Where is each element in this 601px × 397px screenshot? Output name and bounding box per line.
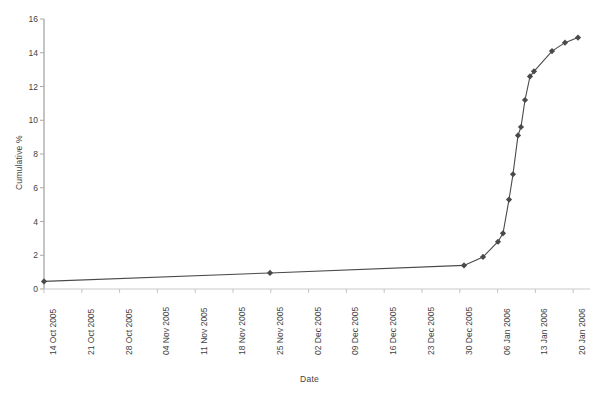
x-tick-label: 21 Oct 2005 bbox=[86, 309, 96, 355]
x-axis-title: Date bbox=[300, 374, 319, 384]
x-tick-label: 14 Oct 2005 bbox=[48, 309, 58, 355]
x-tick-label: 06 Jan 2006 bbox=[502, 308, 512, 355]
x-tick-label: 20 Jan 2006 bbox=[577, 308, 587, 355]
x-tick-label: 11 Nov 2005 bbox=[199, 307, 209, 355]
x-tick-label: 02 Dec 2005 bbox=[313, 307, 323, 355]
x-tick-label: 30 Dec 2005 bbox=[464, 307, 474, 355]
y-axis-title-wrap: Cumulative % bbox=[0, 0, 18, 300]
x-tick-label: 18 Nov 2005 bbox=[237, 307, 247, 355]
y-axis-title: Cumulative % bbox=[14, 135, 24, 190]
cumulative-percent-line-chart: 0246810121416 14 Oct 200521 Oct 200528 O… bbox=[0, 0, 601, 397]
x-axis-tick-labels: 14 Oct 200521 Oct 200528 Oct 200504 Nov … bbox=[0, 0, 601, 397]
x-tick-label: 23 Dec 2005 bbox=[426, 307, 436, 355]
x-tick-label: 09 Dec 2005 bbox=[350, 307, 360, 355]
x-tick-label: 13 Jan 2006 bbox=[539, 308, 549, 355]
x-tick-label: 25 Nov 2005 bbox=[275, 307, 285, 355]
x-tick-label: 16 Dec 2005 bbox=[388, 307, 398, 355]
x-axis-title-wrap: Date bbox=[0, 368, 601, 386]
x-tick-label: 04 Nov 2005 bbox=[161, 307, 171, 355]
x-tick-label: 28 Oct 2005 bbox=[124, 309, 134, 355]
